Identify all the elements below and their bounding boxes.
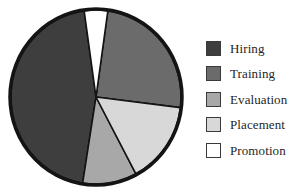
- pie-chart-svg: [8, 4, 192, 190]
- legend-item-promotion[interactable]: Promotion: [206, 140, 291, 160]
- legend-item-placement[interactable]: Placement: [206, 115, 291, 135]
- pie-slice-hiring[interactable]: [11, 11, 96, 183]
- pie-slice-group: [11, 10, 181, 184]
- legend-swatch-promotion: [206, 143, 221, 158]
- legend-item-training[interactable]: Training: [206, 64, 291, 84]
- legend-swatch-placement: [206, 117, 221, 132]
- legend-label-promotion: Promotion: [230, 143, 286, 158]
- legend-label-hiring: Hiring: [230, 41, 265, 56]
- legend-item-hiring[interactable]: Hiring: [206, 38, 291, 58]
- pie-slice-training[interactable]: [96, 11, 181, 108]
- pie-chart-figure: Hiring Training Evaluation Placement Pro…: [0, 0, 291, 192]
- legend-label-placement: Placement: [230, 117, 285, 132]
- pie-chart-plot-area: [8, 4, 192, 190]
- legend-label-evaluation: Evaluation: [230, 92, 287, 107]
- legend-swatch-evaluation: [206, 92, 221, 107]
- legend-label-training: Training: [230, 66, 275, 81]
- chart-legend: Hiring Training Evaluation Placement Pro…: [206, 38, 291, 160]
- legend-item-evaluation[interactable]: Evaluation: [206, 89, 291, 109]
- legend-swatch-hiring: [206, 41, 221, 56]
- legend-swatch-training: [206, 66, 221, 81]
